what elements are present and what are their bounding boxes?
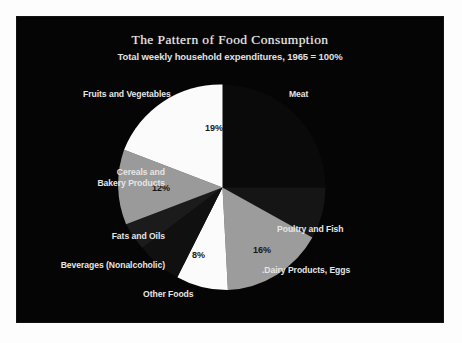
chart-figure: The Pattern of Food Consumption Total we… xyxy=(17,17,443,322)
pie-value-fruits-and-vegetables: 19% xyxy=(205,123,223,133)
label-poultry-and-fish: Poultry and Fish xyxy=(277,224,344,235)
pie-value-dairy-products-eggs: 16% xyxy=(253,245,271,255)
label-beverages-nonalcoholic: Beverages (Nonalcoholic) xyxy=(47,260,165,271)
label-cereals-line-2: Bakery Products xyxy=(97,178,165,188)
chart-subtitle: Total weekly household expenditures, 196… xyxy=(17,51,443,62)
label-cereals-and-bakery-products: Cereals and Bakery Products xyxy=(64,167,165,188)
label-cereals-line-1: Cereals and xyxy=(117,167,165,177)
label-fruits-and-vegetables: Fruits and Vegetables xyxy=(83,89,171,100)
chart-title: The Pattern of Food Consumption xyxy=(17,32,443,48)
label-other-foods: Other Foods xyxy=(143,289,194,300)
label-dairy-products-eggs: .Dairy Products, Eggs xyxy=(262,265,350,276)
pie-value-other-foods: 8% xyxy=(192,250,205,260)
label-fats-and-oils: Fats and Oils xyxy=(73,231,165,242)
label-meat: Meat xyxy=(289,89,308,100)
pie-slice-meat[interactable] xyxy=(223,85,326,188)
